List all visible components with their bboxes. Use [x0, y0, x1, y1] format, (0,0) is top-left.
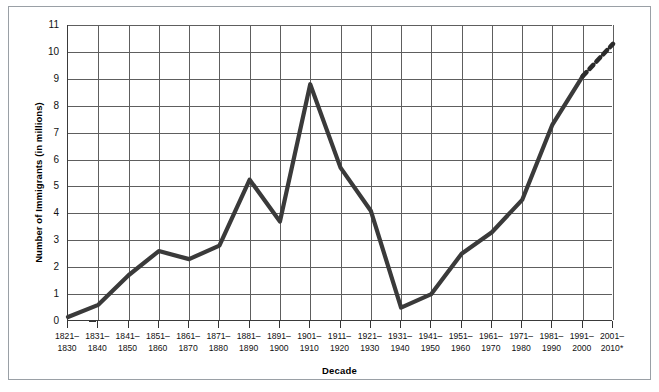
x-axis-tick-mark	[370, 321, 371, 328]
y-axis-tick-label: 6	[37, 155, 59, 165]
x-axis-tick-mark	[430, 321, 431, 328]
y-axis-tick-label: 8	[37, 101, 59, 111]
gridline-vertical	[613, 25, 614, 320]
x-axis-tick-mark	[67, 321, 68, 328]
x-axis-tick-mark	[340, 321, 341, 328]
y-axis-tick-label: 5	[37, 181, 59, 191]
x-axis-tick-label: 2001–2010*	[589, 331, 635, 354]
data-series-layer	[68, 25, 612, 320]
y-axis-tick-label: 10	[37, 47, 59, 57]
immigration-line-path	[68, 25, 613, 321]
solid-line-segment	[68, 76, 583, 317]
y-axis-tick-label: 4	[37, 208, 59, 218]
x-axis-tick-mark	[551, 321, 552, 328]
y-axis-tick-label: 0	[37, 316, 59, 326]
y-axis-tick-label: 7	[37, 128, 59, 138]
x-axis-tick-mark	[491, 321, 492, 328]
plot-area	[67, 25, 612, 321]
x-axis-tick-mark	[188, 321, 189, 328]
x-axis-tick-labels: 1821–18301831–18401841–18501851–18601861…	[67, 331, 612, 361]
x-axis-tick-mark	[309, 321, 310, 328]
chart-frame-border: Number of Immigrants (in millions) 01234…	[8, 6, 651, 380]
y-axis-tick-label: 1	[37, 289, 59, 299]
x-axis-tick-mark	[97, 321, 98, 328]
y-axis-tick-labels: 01234567891011	[37, 25, 59, 321]
x-axis-tick-mark	[461, 321, 462, 328]
x-axis-tick-mark	[612, 321, 613, 328]
x-axis-tick-label-line: 2001–	[589, 331, 635, 343]
projected-dashed-segment	[583, 44, 613, 76]
x-axis-tick-mark	[128, 321, 129, 328]
y-axis-tick-label: 2	[37, 262, 59, 272]
x-axis-tick-marks	[67, 321, 612, 329]
y-axis-tick-label: 11	[37, 20, 59, 30]
x-axis-tick-mark	[158, 321, 159, 328]
x-axis-tick-mark	[582, 321, 583, 328]
x-axis-tick-label-line: 2010*	[589, 343, 635, 355]
x-axis-tick-mark	[218, 321, 219, 328]
x-axis-tick-mark	[400, 321, 401, 328]
immigration-line-chart-figure: Number of Immigrants (in millions) 01234…	[0, 0, 659, 392]
x-axis-tick-mark	[249, 321, 250, 328]
x-axis-tick-mark	[521, 321, 522, 328]
x-axis-title: Decade	[67, 365, 612, 376]
y-axis-tick-label: 9	[37, 74, 59, 84]
y-axis-tick-label: 3	[37, 235, 59, 245]
x-axis-tick-mark	[279, 321, 280, 328]
